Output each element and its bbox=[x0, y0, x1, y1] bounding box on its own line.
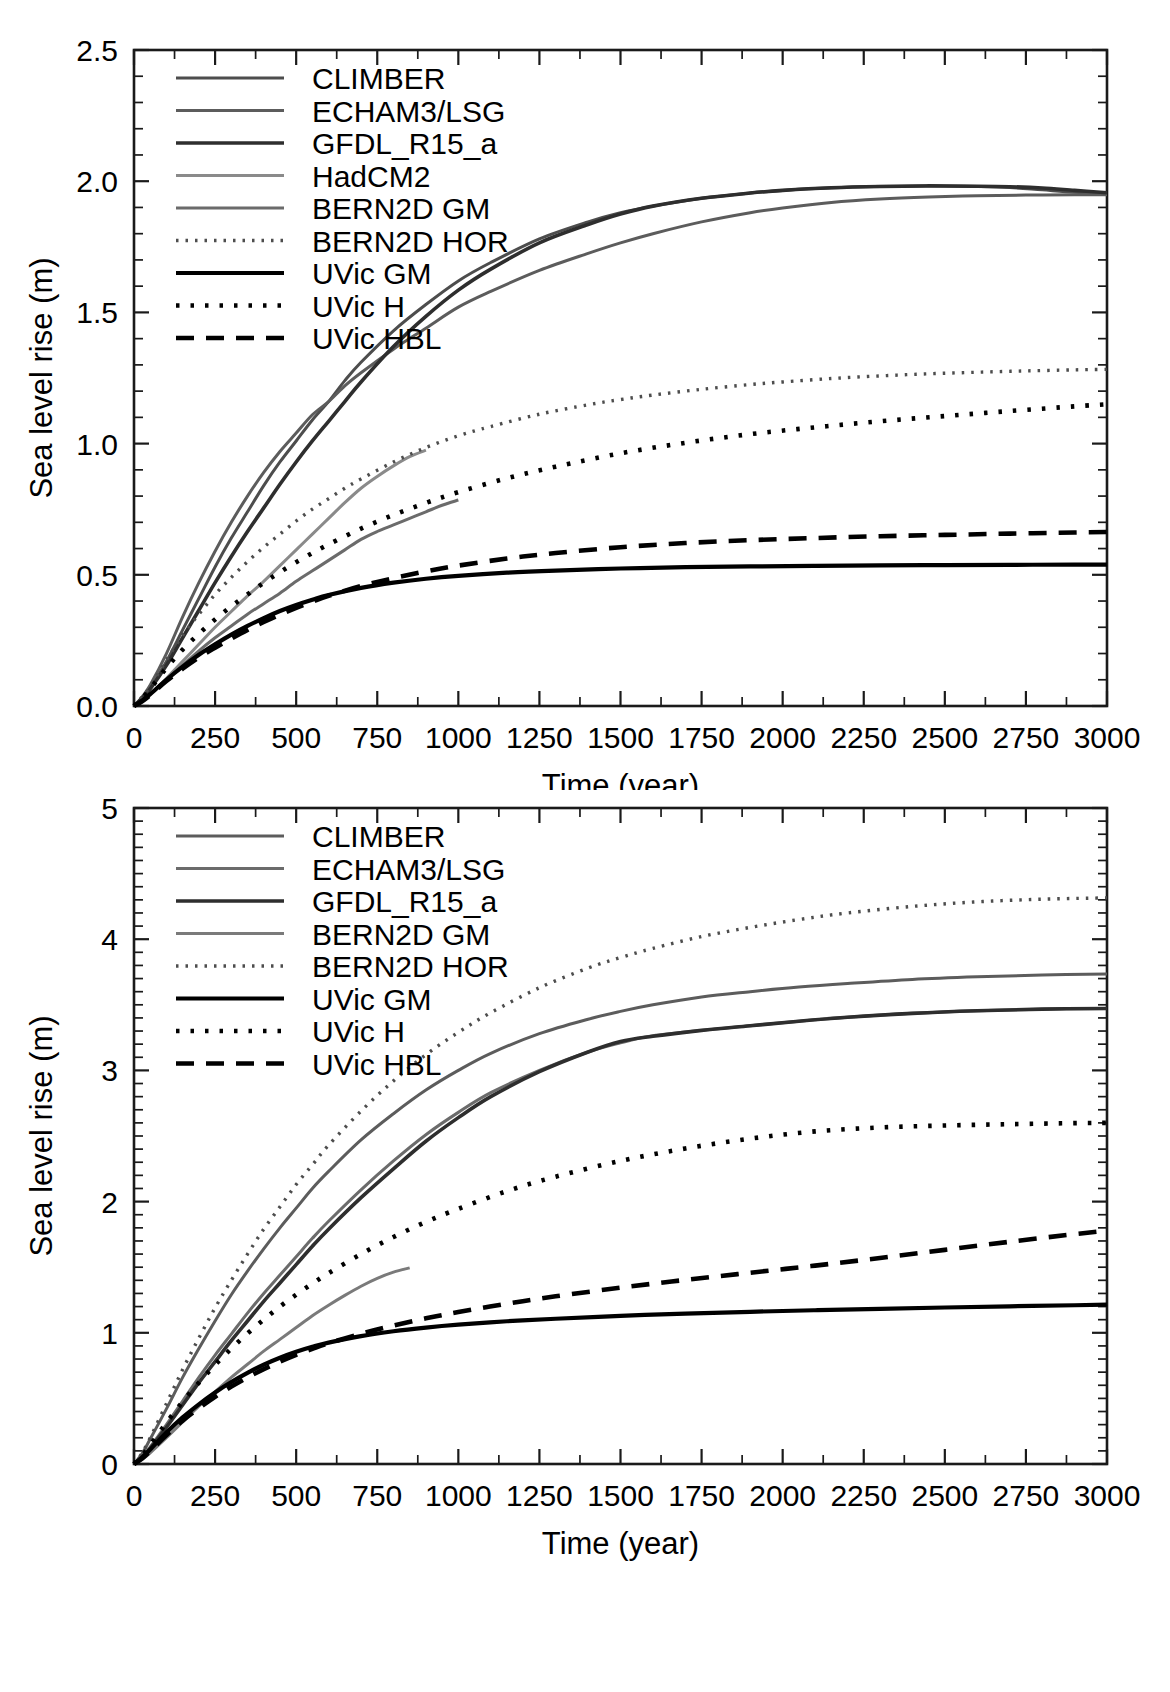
line-chart-bottom: 0250500750100012501500175020002250250027… bbox=[0, 790, 1170, 1692]
series-line-hadcm2 bbox=[134, 450, 426, 706]
x-tick-label: 2000 bbox=[749, 1479, 816, 1512]
series-line-uvic-h bbox=[134, 1123, 1107, 1464]
x-tick-label: 1750 bbox=[668, 721, 735, 754]
x-tick-label: 2500 bbox=[911, 1479, 978, 1512]
x-tick-label: 1500 bbox=[587, 1479, 654, 1512]
legend-label-climber: CLIMBER bbox=[312, 62, 445, 95]
y-axis-title: Sea level rise (m) bbox=[24, 1015, 59, 1256]
legend-label-bern2d-gm: BERN2D GM bbox=[312, 918, 490, 951]
series-line-gfdl-r15-a bbox=[134, 1008, 1107, 1464]
y-tick-label: 3 bbox=[101, 1054, 118, 1087]
chart-panel-top: 0250500750100012501500175020002250250027… bbox=[0, 0, 1170, 790]
legend-label-uvic-h: UVic H bbox=[312, 1015, 405, 1048]
y-tick-label: 1 bbox=[101, 1317, 118, 1350]
x-tick-label: 1500 bbox=[587, 721, 654, 754]
legend-label-gfdl-r15-a: GFDL_R15_a bbox=[312, 127, 497, 160]
chart-panel-bottom: 0250500750100012501500175020002250250027… bbox=[0, 790, 1170, 1692]
y-tick-label: 1.5 bbox=[76, 296, 118, 329]
x-tick-label: 0 bbox=[126, 721, 143, 754]
x-tick-label: 2000 bbox=[749, 721, 816, 754]
y-tick-label: 0 bbox=[101, 1448, 118, 1481]
x-tick-label: 0 bbox=[126, 1479, 143, 1512]
x-tick-label: 750 bbox=[352, 721, 402, 754]
x-tick-label: 500 bbox=[271, 1479, 321, 1512]
legend-label-echam3-lsg: ECHAM3/LSG bbox=[312, 95, 505, 128]
y-tick-label: 2.5 bbox=[76, 34, 118, 67]
x-tick-label: 1750 bbox=[668, 1479, 735, 1512]
x-tick-label: 1250 bbox=[506, 1479, 573, 1512]
y-tick-label: 4 bbox=[101, 923, 118, 956]
legend-label-climber: CLIMBER bbox=[312, 820, 445, 853]
y-tick-label: 0.0 bbox=[76, 690, 118, 723]
series-line-climber bbox=[134, 974, 1107, 1464]
series-line-uvic-gm bbox=[134, 565, 1107, 706]
y-axis-title: Sea level rise (m) bbox=[24, 257, 59, 498]
series-line-gfdl-r15-a bbox=[134, 186, 1107, 706]
x-tick-label: 3000 bbox=[1074, 1479, 1141, 1512]
series-line-uvic-gm bbox=[134, 1305, 1107, 1464]
y-tick-label: 2 bbox=[101, 1186, 118, 1219]
figure-canvas: 0250500750100012501500175020002250250027… bbox=[0, 0, 1170, 1692]
y-tick-label: 2.0 bbox=[76, 165, 118, 198]
series-line-echam3-lsg bbox=[134, 1008, 1107, 1464]
legend-label-gfdl-r15-a: GFDL_R15_a bbox=[312, 885, 497, 918]
x-tick-label: 2250 bbox=[830, 1479, 897, 1512]
x-axis-title: Time (year) bbox=[542, 1526, 699, 1561]
x-tick-label: 2250 bbox=[830, 721, 897, 754]
legend-label-uvic-hbl: UVic HBL bbox=[312, 322, 442, 355]
legend-label-bern2d-hor: BERN2D HOR bbox=[312, 225, 509, 258]
x-tick-label: 1250 bbox=[506, 721, 573, 754]
x-tick-label: 1000 bbox=[425, 721, 492, 754]
line-chart-top: 0250500750100012501500175020002250250027… bbox=[0, 0, 1170, 790]
x-axis-title: Time (year) bbox=[542, 768, 699, 790]
x-tick-label: 2750 bbox=[993, 1479, 1060, 1512]
legend-label-uvic-gm: UVic GM bbox=[312, 983, 431, 1016]
legend-label-bern2d-hor: BERN2D HOR bbox=[312, 950, 509, 983]
plot-frame bbox=[134, 808, 1107, 1464]
x-tick-label: 500 bbox=[271, 721, 321, 754]
x-tick-label: 3000 bbox=[1074, 721, 1141, 754]
legend-label-uvic-hbl: UVic HBL bbox=[312, 1048, 442, 1081]
x-tick-label: 2750 bbox=[993, 721, 1060, 754]
plot-frame bbox=[134, 50, 1107, 706]
x-tick-label: 750 bbox=[352, 1479, 402, 1512]
x-tick-label: 250 bbox=[190, 1479, 240, 1512]
y-tick-label: 0.5 bbox=[76, 559, 118, 592]
y-tick-label: 5 bbox=[101, 792, 118, 825]
series-line-bern2d-gm bbox=[134, 1268, 410, 1464]
legend-label-uvic-h: UVic H bbox=[312, 290, 405, 323]
series-line-bern2d-hor bbox=[134, 369, 1107, 706]
legend-label-echam3-lsg: ECHAM3/LSG bbox=[312, 853, 505, 886]
series-line-uvic-hbl bbox=[134, 532, 1107, 706]
legend-label-hadcm2: HadCM2 bbox=[312, 160, 430, 193]
legend-label-bern2d-gm: BERN2D GM bbox=[312, 192, 490, 225]
series-line-bern2d-hor bbox=[134, 898, 1107, 1464]
x-tick-label: 250 bbox=[190, 721, 240, 754]
x-tick-label: 1000 bbox=[425, 1479, 492, 1512]
legend-label-uvic-gm: UVic GM bbox=[312, 257, 431, 290]
series-line-uvic-hbl bbox=[134, 1231, 1107, 1464]
y-tick-label: 1.0 bbox=[76, 428, 118, 461]
series-line-climber bbox=[134, 186, 1107, 706]
x-tick-label: 2500 bbox=[911, 721, 978, 754]
